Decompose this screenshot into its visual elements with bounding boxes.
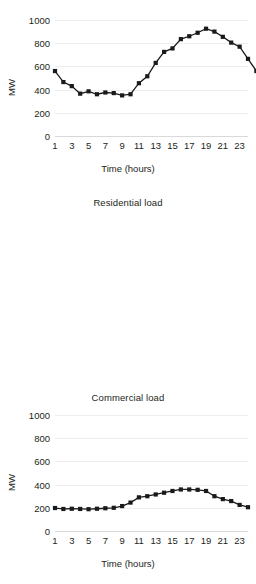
x-axis-tick-label: 15 [167, 140, 178, 151]
chart-title-commercial: Commercial load [0, 392, 256, 403]
x-axis-tick-label: 13 [150, 140, 161, 151]
gridline [55, 136, 248, 137]
x-axis-tick-label: 7 [103, 140, 108, 151]
chart-total-load: MW 02004006008001000 1357911131517192123… [0, 0, 256, 195]
data-point-marker [78, 92, 82, 96]
data-point-marker [162, 50, 166, 54]
x-axis-tick-label: 9 [119, 140, 124, 151]
x-axis-tick-label: 3 [69, 140, 74, 151]
data-point-marker [103, 90, 107, 94]
x-axis-tick-label: 5 [86, 140, 91, 151]
chart-commercial-load: Commercial load MW 02004006008001000 135… [0, 390, 256, 584]
data-point-marker [120, 93, 124, 97]
data-point-marker [154, 61, 158, 65]
data-point-marker [179, 37, 183, 41]
x-axis-tick-label: 1 [52, 140, 57, 151]
data-point-marker [238, 45, 242, 49]
data-point-marker [53, 69, 57, 73]
y-axis-tick-label: 600 [34, 61, 50, 72]
y-axis-tick-label: 200 [34, 107, 50, 118]
x-axis-label-total: Time (hours) [0, 163, 256, 174]
y-axis-tick-label: 1000 [29, 15, 50, 26]
data-point-marker [246, 57, 250, 61]
data-point-marker [221, 35, 225, 39]
data-point-marker [204, 27, 208, 31]
y-axis-label-total: MW [6, 79, 17, 96]
x-axis-tick-label: 19 [201, 140, 212, 151]
data-point-marker [212, 30, 216, 34]
data-point-marker [128, 92, 132, 96]
y-axis-tick-label: 800 [34, 38, 50, 49]
plot-area-total: 02004006008001000 [55, 20, 248, 136]
data-point-marker [86, 89, 90, 93]
data-point-marker [254, 69, 256, 73]
x-axis-tick-label: 23 [234, 140, 245, 151]
data-point-marker [61, 80, 65, 84]
data-series-total [55, 20, 248, 136]
data-point-marker [145, 74, 149, 78]
data-point-marker [112, 91, 116, 95]
data-point-marker [196, 31, 200, 35]
x-axis-tick-label: 11 [134, 140, 144, 151]
data-point-marker [95, 92, 99, 96]
x-axis-tick-label: 17 [184, 140, 195, 151]
chart-residential-load: Residential load MW 02004006008001000 13… [0, 195, 256, 390]
data-point-marker [70, 84, 74, 88]
data-point-marker [137, 81, 141, 85]
x-axis-ticks-total: 1357911131517192123 [55, 140, 248, 154]
y-axis-tick-label: 0 [45, 131, 50, 142]
data-point-marker [170, 46, 174, 50]
data-point-marker [187, 34, 191, 38]
data-point-marker [229, 41, 233, 45]
x-axis-tick-label: 21 [218, 140, 229, 151]
figure-panel: MW 02004006008001000 1357911131517192123… [0, 0, 256, 584]
chart-title-residential: Residential load [0, 197, 256, 208]
y-axis-tick-label: 400 [34, 84, 50, 95]
